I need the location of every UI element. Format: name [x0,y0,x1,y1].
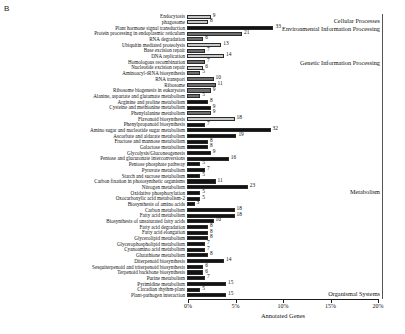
bar [187,242,205,246]
group-label: Cellular Processes [334,16,380,23]
bar [187,43,221,47]
x-tick [236,299,237,303]
bar [187,37,203,41]
bar-value-label: 7 [207,166,210,171]
bar [187,179,216,183]
bar [187,236,208,240]
bar [187,214,235,218]
bar [187,100,208,104]
bar [187,293,226,297]
bar-value-label: 3 [197,200,200,205]
group-bracket [382,288,383,299]
bar-value-label: 33 [275,24,280,29]
bar [187,157,229,161]
x-tick-label: 5% [232,303,240,309]
bar-value-label: 8 [210,251,213,256]
bar [187,123,205,127]
bar [187,66,203,70]
bar [187,185,248,189]
bar-value-label: 13 [223,41,228,46]
bar [187,265,203,269]
bar-value-label: 9 [213,87,216,92]
bar-value-label: 14 [226,52,231,57]
group-bracket [382,14,383,25]
group-label: Genetic Information Processing [300,59,380,66]
bar-value-label: 8 [210,234,213,239]
bar [187,77,214,81]
bar-value-label: 15 [228,280,233,285]
group-label: Environmental Information Processing [282,25,380,32]
bar-value-label: 15 [228,291,233,296]
bar-value-label: 7 [207,274,210,279]
x-tick [378,299,379,303]
bar-value-label: 21 [244,30,249,35]
bar [187,288,200,292]
x-tick [283,299,284,303]
bar [187,54,224,58]
bar-value-label: 23 [250,183,255,188]
group-label: Metabolism [350,187,380,194]
bar [187,49,205,53]
bar-value-label: 5 [202,195,205,200]
bar [187,140,208,144]
group-bracket [382,31,383,94]
bar-value-label: 5 [202,92,205,97]
bar [187,60,205,64]
bar [187,106,211,110]
bar [187,253,208,257]
bar [187,117,235,121]
x-tick-label: 15% [325,303,336,309]
bar-value-label: 6 [205,35,208,40]
bar-value-label: 7 [207,47,210,52]
bar [187,32,242,36]
x-tick-label: 10% [278,303,289,309]
x-axis-label: Annotated Genes [188,312,378,319]
bar [187,26,273,30]
kegg-annotation-chart-panel: B Endocytosis9phagosome8Plant hormone si… [0,0,405,334]
group-bracket [382,94,383,288]
bar [187,15,211,19]
bar-value-label: 32 [273,126,278,131]
bar-value-label: 11 [218,81,223,86]
bar [187,94,200,98]
x-tick-label: 0% [184,303,192,309]
bar-value-label: 9 [213,149,216,154]
bar [187,71,200,75]
bar-value-label: 5 [202,69,205,74]
pathway-label: RNA transport [0,77,187,82]
bar [187,231,208,235]
bar [187,88,211,92]
bar [187,111,211,115]
bar-value-label: 8 [210,18,213,23]
bar-value-label: 10 [216,217,221,222]
bar [187,282,226,286]
bar-value-label: 6 [205,64,208,69]
pathway-label: Plant-pathogen interaction [0,293,187,298]
bar-value-label: 18 [237,212,242,217]
x-tick-label: 20% [373,303,384,309]
bar-value-label: 7 [207,121,210,126]
bar [187,162,200,166]
bar [187,174,200,178]
bar-value-label: 11 [218,178,223,183]
bar [187,276,205,280]
panel-letter: B [4,4,9,13]
bar-value-label: 5 [202,172,205,177]
bar [187,151,211,155]
x-tick [188,299,189,303]
bar [187,20,208,24]
bar [187,248,205,252]
bar [187,270,203,274]
bar-value-label: 19 [238,132,243,137]
bar-value-label: 9 [213,109,216,114]
bar [187,145,208,149]
bar-value-label: 9 [213,13,216,18]
pathway-label: Endocytosis [0,14,187,19]
bar-value-label: 5 [202,160,205,165]
bar [187,83,216,87]
bar [187,208,235,212]
bar-value-label: 18 [237,115,242,120]
bar [187,128,271,132]
bar-value-label: 16 [231,155,236,160]
group-label: Organismal Systems [328,290,380,297]
